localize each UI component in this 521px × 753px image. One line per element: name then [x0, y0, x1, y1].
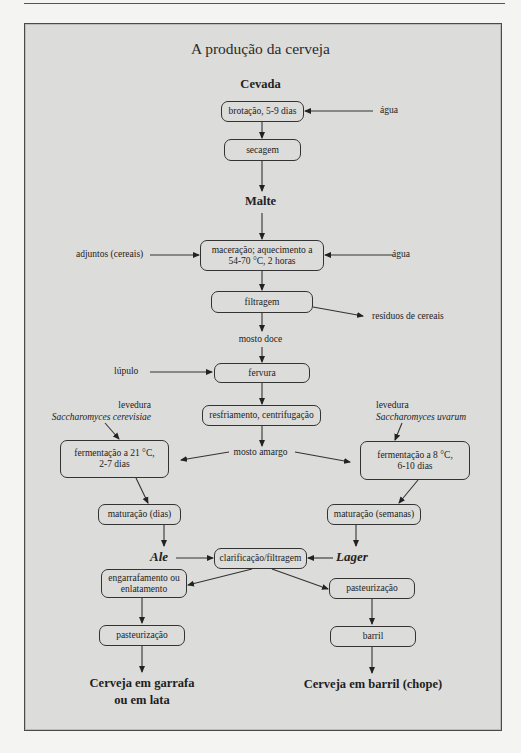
label-saccharomyces-uvarum: Saccharomyces uvarum	[376, 412, 466, 423]
node-maceracao-line2: 54-70 °C, 2 horas	[228, 256, 295, 267]
node-resfriamento: resfriamento, centrifugação	[202, 405, 321, 426]
node-clarificacao: clarificação/filtragem	[214, 548, 307, 569]
node-maceracao-line1: maceração; aquecimento a	[212, 245, 313, 256]
node-pasteurizacao-right: pasteurização	[329, 578, 415, 599]
node-fermentacao-ale-line2: 2-7 dias	[99, 459, 129, 470]
node-fermentacao-lager-line2: 6-10 dias	[397, 461, 432, 472]
node-barril: barril	[330, 626, 416, 647]
label-lager: Lager	[336, 551, 368, 562]
label-levedura-right: levedura	[376, 400, 409, 411]
diagram-title: A produção da cerveja	[0, 40, 521, 58]
label-residuos: resíduos de cereais	[372, 311, 444, 322]
node-fermentacao-ale: fermentação a 21 °C, 2-7 dias	[60, 440, 169, 478]
node-fermentacao-ale-line1: fermentação a 21 °C,	[74, 448, 154, 459]
node-engarrafamento-line2: enlatamento	[121, 584, 167, 595]
node-fervura: fervura	[214, 363, 310, 383]
label-saccharomyces-cerevisiae: Saccharomyces cerevisiae	[20, 412, 151, 423]
label-levedura-left: levedura	[40, 400, 151, 411]
node-engarrafamento-line1: engarrafamento ou	[108, 573, 179, 584]
label-mosto-doce: mosto doce	[0, 334, 521, 345]
label-agua-1: água	[380, 105, 398, 116]
output-left-line1: Cerveja em garrafa	[72, 675, 212, 692]
label-malte: Malte	[0, 196, 521, 207]
node-brotacao: brotação, 5-9 dias	[221, 101, 304, 122]
node-engarrafamento: engarrafamento ou enlatamento	[101, 569, 187, 598]
node-maturacao-dias: maturação (dias)	[98, 504, 181, 525]
label-adjuntos: adjuntos (cereais)	[76, 249, 143, 260]
label-cevada: Cevada	[0, 79, 521, 90]
output-barril-chope: Cerveja em barril (chope)	[283, 676, 463, 693]
node-pasteurizacao-left: pasteurização	[99, 625, 185, 646]
node-maceracao: maceração; aquecimento a 54-70 °C, 2 hor…	[200, 240, 324, 271]
output-garrafa-lata: Cerveja em garrafa ou em lata	[72, 675, 212, 709]
label-lupulo: lúpulo	[114, 366, 138, 377]
node-secagem: secagem	[224, 139, 301, 161]
node-fermentacao-lager: fermentação a 8 °C, 6-10 dias	[360, 441, 470, 480]
label-agua-2: água	[392, 249, 410, 260]
node-maturacao-semanas: maturação (semanas)	[327, 504, 421, 525]
output-left-line2: ou em lata	[72, 692, 212, 709]
label-ale: Ale	[150, 551, 168, 562]
node-fermentacao-lager-line1: fermentação a 8 °C,	[377, 450, 453, 461]
node-filtragem: filtragem	[211, 291, 313, 313]
